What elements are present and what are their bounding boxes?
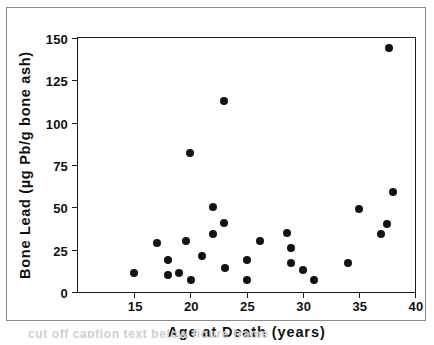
data-point bbox=[209, 203, 217, 211]
x-axis-tick: 35 bbox=[359, 292, 360, 298]
y-axis-tick-label: 0 bbox=[61, 286, 68, 301]
data-point bbox=[198, 252, 206, 260]
y-axis-tick: 50 bbox=[72, 207, 78, 208]
y-axis-tick-label: 50 bbox=[53, 201, 68, 216]
data-point bbox=[243, 256, 251, 264]
x-axis-tick-label: 20 bbox=[184, 299, 199, 314]
data-point bbox=[221, 264, 229, 272]
data-point bbox=[310, 276, 318, 284]
y-axis-tick: 75 bbox=[72, 165, 78, 166]
x-axis-tick: 25 bbox=[247, 292, 248, 298]
x-axis-tick-label: 40 bbox=[409, 299, 424, 314]
data-point bbox=[256, 237, 264, 245]
scatter-plot-area: 0255075100125150152025303540 bbox=[77, 37, 416, 293]
data-point bbox=[182, 237, 190, 245]
y-axis-tick: 25 bbox=[72, 250, 78, 251]
data-point bbox=[186, 149, 194, 157]
x-axis-tick-label: 15 bbox=[128, 299, 143, 314]
x-axis-tick: 20 bbox=[190, 292, 191, 298]
caption-artifact-text: cut off caption text below figure frame bbox=[28, 327, 358, 338]
figure-frame: 0255075100125150152025303540 Age at Deat… bbox=[6, 7, 426, 321]
data-point bbox=[383, 220, 391, 228]
data-point bbox=[187, 276, 195, 284]
x-axis-tick-label: 35 bbox=[352, 299, 367, 314]
y-axis-tick: 0 bbox=[72, 292, 78, 293]
data-point bbox=[130, 269, 138, 277]
data-point bbox=[344, 259, 352, 267]
y-axis-tick-label: 25 bbox=[53, 243, 68, 258]
data-point bbox=[153, 239, 161, 247]
y-axis-tick: 125 bbox=[72, 80, 78, 81]
data-point bbox=[164, 271, 172, 279]
data-point bbox=[377, 230, 385, 238]
data-point bbox=[175, 269, 183, 277]
data-point bbox=[220, 219, 228, 227]
data-point bbox=[299, 266, 307, 274]
data-point bbox=[389, 188, 397, 196]
y-axis-tick: 150 bbox=[72, 38, 78, 39]
x-axis-tick-label: 25 bbox=[240, 299, 255, 314]
y-axis-tick-label: 100 bbox=[46, 116, 68, 131]
y-axis-tick-label: 125 bbox=[46, 74, 68, 89]
y-axis-tick-label: 75 bbox=[53, 159, 68, 174]
y-axis-tick-label: 150 bbox=[46, 32, 68, 47]
x-axis-tick: 15 bbox=[134, 292, 135, 298]
y-axis-title: Bone Lead (µg Pb/g bone ash) bbox=[17, 37, 39, 293]
data-point bbox=[283, 229, 291, 237]
x-axis-tick: 40 bbox=[415, 292, 416, 298]
x-axis-tick-label: 30 bbox=[296, 299, 311, 314]
y-axis-tick: 100 bbox=[72, 123, 78, 124]
data-point bbox=[287, 259, 295, 267]
x-axis-tick: 30 bbox=[303, 292, 304, 298]
data-point bbox=[355, 205, 363, 213]
data-point bbox=[220, 97, 228, 105]
data-point bbox=[385, 44, 393, 52]
data-point bbox=[243, 276, 251, 284]
data-point bbox=[164, 256, 172, 264]
data-point bbox=[209, 230, 217, 238]
data-point bbox=[287, 244, 295, 252]
